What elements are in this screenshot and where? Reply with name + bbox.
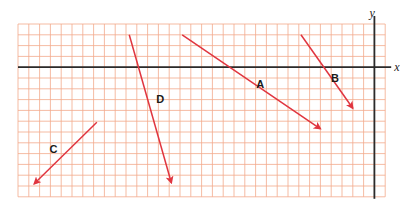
vector-diagram: x y ABCD <box>0 0 405 209</box>
graph-paper-grid <box>18 24 385 197</box>
vectors: ABCD <box>34 35 353 184</box>
vector-label: D <box>156 93 164 105</box>
vector-label: B <box>331 72 339 84</box>
x-axis-label: x <box>393 60 400 74</box>
vector-arrow <box>129 35 171 183</box>
vector-arrow <box>182 35 320 129</box>
vector-label: C <box>50 143 58 155</box>
vector-arrow <box>34 122 97 184</box>
y-axis-label: y <box>368 6 375 20</box>
vector-label: A <box>256 78 264 90</box>
vector-c: C <box>34 122 97 184</box>
vector-d: D <box>129 35 171 183</box>
vector-a: A <box>182 35 320 129</box>
